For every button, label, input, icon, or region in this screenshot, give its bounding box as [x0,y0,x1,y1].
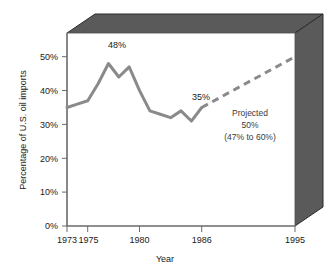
y-tick-label-10: 10% [40,187,58,197]
y-tick-label-0: 0% [45,221,58,231]
y-axis-title: Percentage of U.S. oil imports [18,70,28,190]
y-tick-label-30: 30% [40,120,58,130]
chart-3d-box [67,14,323,226]
box-top-face [67,14,323,33]
oil-imports-line-chart: 0% 10% 20% 30% 40% 50% Percentage of U.S… [0,0,326,274]
x-tick-label-1980: 1980 [129,235,149,245]
x-tick-label-1975: 1975 [78,235,98,245]
x-tick-label-1995: 1995 [285,235,305,245]
annotation-peak-48: 48% [108,40,126,50]
plot-panel [67,33,295,226]
annotation-projected-title: Projected [232,108,268,118]
x-axis-title: Year [156,254,174,264]
y-tick-label-50: 50% [40,52,58,62]
y-tick-label-20: 20% [40,154,58,164]
x-axis: 1973 1975 1980 1986 1995 Year [57,226,305,264]
x-tick-label-1986: 1986 [192,235,212,245]
annotation-projected-value: 50% [241,120,258,130]
y-axis: 0% 10% 20% 30% 40% 50% Percentage of U.S… [18,33,67,231]
box-right-face [295,14,323,226]
annotation-last-actual-35: 35% [192,92,210,102]
chart-container: 0% 10% 20% 30% 40% 50% Percentage of U.S… [0,0,326,274]
annotation-projected-range: (47% to 60%) [224,132,276,142]
y-tick-label-40: 40% [40,86,58,96]
x-tick-label-1973: 1973 [57,235,77,245]
